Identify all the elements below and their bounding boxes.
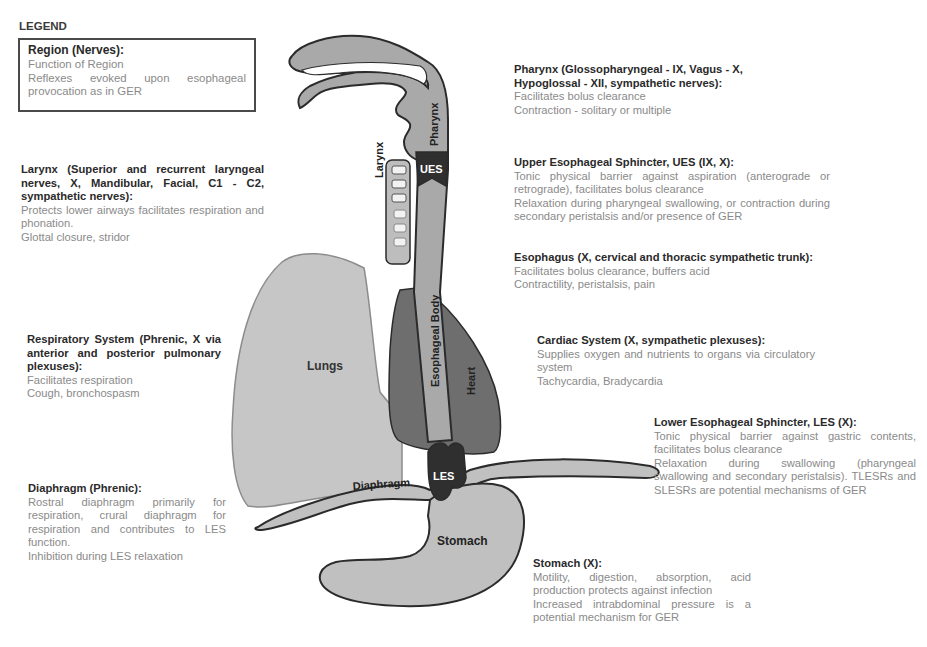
region-stomach: Stomach (X): Motility, digestion, absorp… bbox=[533, 557, 751, 625]
region-function: Motility, digestion, absorption, acid pr… bbox=[533, 571, 751, 598]
region-les: Lower Esophageal Sphincter, LES (X): Ton… bbox=[654, 416, 916, 498]
region-title: Lower Esophageal Sphincter, LES (X): bbox=[654, 416, 916, 430]
region-esophagus: Esophagus (X, cervical and thoracic symp… bbox=[514, 251, 874, 292]
region-function: Facilitates bolus clearance bbox=[514, 90, 804, 104]
trachea-rings bbox=[386, 160, 410, 264]
region-title: Respiratory System (Phrenic, X via anter… bbox=[27, 333, 221, 374]
region-title: Stomach (X): bbox=[533, 557, 751, 571]
region-function: Supplies oxygen and nutrients to organs … bbox=[537, 348, 815, 375]
region-reflex: Tachycardia, Bradycardia bbox=[537, 375, 815, 389]
region-reflex: Relaxation during swallowing (pharyngeal… bbox=[654, 457, 916, 498]
label-heart: Heart bbox=[465, 367, 477, 395]
region-reflex: Contractility, peristalsis, pain bbox=[514, 278, 874, 292]
legend-box: Region (Nerves): Function of Region Refl… bbox=[18, 38, 256, 112]
region-respiratory: Respiratory System (Phrenic, X via anter… bbox=[27, 333, 221, 401]
region-function: Tonic physical barrier against aspiratio… bbox=[514, 170, 830, 197]
region-reflex: Glottal closure, stridor bbox=[21, 231, 264, 245]
region-function: Protects lower airways facilitates respi… bbox=[21, 204, 264, 231]
label-stomach: Stomach bbox=[437, 534, 488, 548]
region-reflex: Relaxation during pharyngeal swallowing,… bbox=[514, 197, 830, 224]
legend-line-function: Function of Region bbox=[28, 58, 246, 72]
region-function: Tonic physical barrier against gastric c… bbox=[654, 430, 916, 457]
label-esophageal-body: Esophageal Body bbox=[429, 294, 441, 387]
region-title: Larynx (Superior and recurrent laryngeal… bbox=[21, 163, 264, 204]
label-ues: UES bbox=[420, 163, 443, 175]
pharynx-shape bbox=[289, 36, 448, 168]
legend-heading: LEGEND bbox=[19, 20, 67, 32]
region-cardiac: Cardiac System (X, sympathetic plexuses)… bbox=[537, 334, 815, 388]
region-function: Rostral diaphragm primarily for respirat… bbox=[28, 496, 226, 550]
region-reflex: Inhibition during LES relaxation bbox=[28, 550, 226, 564]
label-pharynx: Pharynx bbox=[428, 102, 440, 146]
region-function: Facilitates respiration bbox=[27, 374, 221, 388]
legend-line-reflex: Reflexes evoked upon esophageal provocat… bbox=[28, 72, 246, 99]
region-reflex: Increased intrabdominal pressure is a po… bbox=[533, 598, 751, 625]
region-title: Pharynx (Glossopharyngeal - IX, Vagus - … bbox=[514, 63, 804, 90]
region-function: Facilitates bolus clearance, buffers aci… bbox=[514, 265, 874, 279]
lungs-shape bbox=[232, 254, 402, 507]
region-larynx: Larynx (Superior and recurrent laryngeal… bbox=[21, 163, 264, 245]
region-title: Upper Esophageal Sphincter, UES (IX, X): bbox=[514, 156, 830, 170]
legend-title: Region (Nerves): bbox=[28, 43, 246, 58]
label-larynx: Larynx bbox=[373, 141, 385, 178]
region-title: Cardiac System (X, sympathetic plexuses)… bbox=[537, 334, 815, 348]
region-reflex: Contraction - solitary or multiple bbox=[514, 104, 804, 118]
region-ues: Upper Esophageal Sphincter, UES (IX, X):… bbox=[514, 156, 830, 224]
region-title: Esophagus (X, cervical and thoracic symp… bbox=[514, 251, 874, 265]
label-les: LES bbox=[433, 470, 454, 482]
region-diaphragm: Diaphragm (Phrenic): Rostral diaphragm p… bbox=[28, 482, 226, 564]
region-reflex: Cough, bronchospasm bbox=[27, 387, 221, 401]
region-title: Diaphragm (Phrenic): bbox=[28, 482, 226, 496]
label-lungs: Lungs bbox=[307, 359, 343, 373]
region-pharynx: Pharynx (Glossopharyngeal - IX, Vagus - … bbox=[514, 63, 804, 117]
